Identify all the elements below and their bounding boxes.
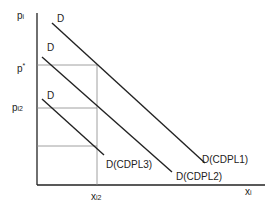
x-axis-label: xi <box>245 187 252 198</box>
demand-curve-cdpl3 <box>42 99 104 155</box>
y-axis-label: pi <box>17 11 24 22</box>
p-i2-label: pi2 <box>12 103 23 114</box>
diagram-canvas <box>0 0 274 212</box>
p-star-label: p* <box>17 61 25 74</box>
x-i2-label: xi2 <box>91 192 101 203</box>
curve-label-d1: D <box>57 14 64 24</box>
cdpl2-label: D(CDPL2) <box>176 172 222 182</box>
cdpl1-label: D(CDPL1) <box>202 155 248 165</box>
curve-label-d3: D <box>47 91 54 101</box>
cdpl3-label: D(CDPL3) <box>106 160 152 170</box>
curve-label-d2: D <box>47 43 54 53</box>
demand-curve-cdpl1 <box>52 23 205 163</box>
